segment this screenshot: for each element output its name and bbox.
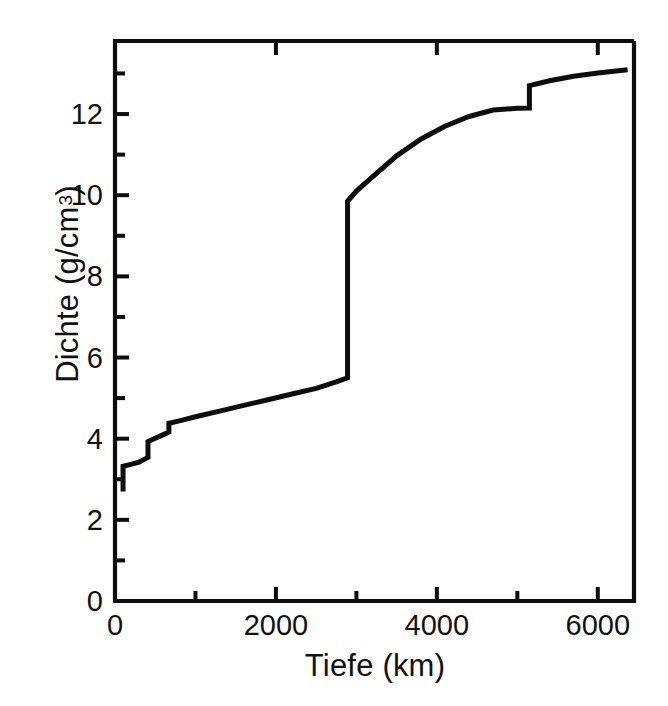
y-axis-title-main: Dichte (g/cm [50, 206, 86, 382]
y-tick-label: 10 [71, 179, 103, 212]
y-axis-title: Dichte (g/cm3) [46, 94, 90, 474]
y-tick-label: 8 [87, 260, 103, 293]
y-tick-label: 0 [87, 585, 103, 618]
x-tick-label: 6000 [566, 609, 631, 642]
y-tick-label: 2 [87, 503, 103, 536]
density-curve [123, 70, 628, 492]
y-tick-label: 12 [71, 98, 103, 131]
x-tick-label: 4000 [405, 609, 470, 642]
axis-frame [115, 41, 634, 601]
x-axis-title: Tiefe (km) [115, 648, 635, 684]
x-tick-label: 2000 [244, 609, 309, 642]
density-depth-figure: Dichte (g/cm3) Tiefe (km) 024681012 0200… [0, 0, 668, 706]
x-tick-label: 0 [107, 609, 123, 642]
y-tick-label: 4 [87, 422, 103, 455]
tick-marks [115, 41, 598, 601]
y-tick-label: 6 [87, 341, 103, 374]
